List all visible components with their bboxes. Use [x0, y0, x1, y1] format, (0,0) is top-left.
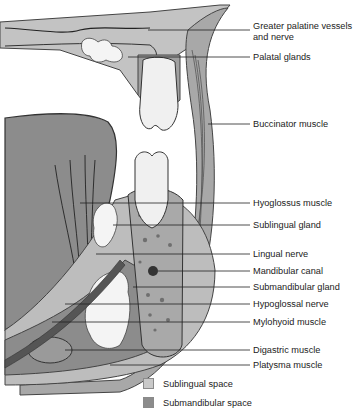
anatomy-diagram: Greater palatine vessels and nerve Palat…	[0, 0, 362, 420]
label-greater-palatine: Greater palatine vessels and nerve	[253, 21, 352, 42]
legend-swatch-icon	[143, 378, 154, 389]
upper-tooth	[140, 57, 178, 130]
label-mylohyoid: Mylohyoid muscle	[253, 317, 326, 328]
legend-swatch-icon	[143, 397, 154, 408]
label-submandibular-gland: Submandibular gland	[253, 282, 340, 293]
lower-tooth	[135, 152, 168, 228]
legend-submandibular: Submandibular space	[143, 397, 252, 408]
legend-label: Sublingual space	[163, 379, 233, 389]
legend-sublingual: Sublingual space	[143, 378, 233, 389]
label-buccinator: Buccinator muscle	[253, 119, 328, 130]
label-hyoglossus: Hyoglossus muscle	[253, 198, 332, 209]
label-palatal-glands: Palatal glands	[253, 52, 311, 63]
legend-label: Submandibular space	[163, 398, 252, 408]
label-mandibular-canal: Mandibular canal	[253, 266, 323, 277]
label-hypoglossal-nerve: Hypoglossal nerve	[253, 299, 329, 310]
label-lingual-nerve: Lingual nerve	[253, 249, 308, 260]
label-platysma: Platysma muscle	[253, 360, 322, 371]
mandibular-canal	[148, 266, 158, 276]
label-sublingual-gland: Sublingual gland	[253, 220, 321, 231]
label-digastric: Digastric muscle	[253, 345, 320, 356]
cross-section-illustration	[0, 0, 362, 420]
